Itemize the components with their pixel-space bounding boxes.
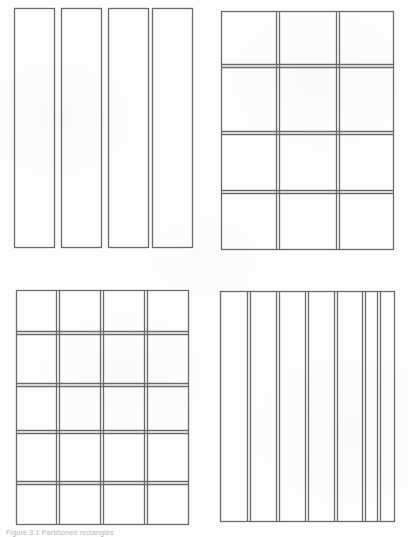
grid-3x4-drawing xyxy=(204,0,408,268)
columns-seven-drawing xyxy=(204,268,408,537)
grid-column-dividers xyxy=(57,291,148,525)
grid-4x5-drawing xyxy=(0,268,204,537)
grid-column-dividers xyxy=(277,12,340,250)
figure-grid-3x4 xyxy=(204,0,408,268)
strip-3 xyxy=(109,9,149,248)
figure-columns-seven xyxy=(204,268,408,537)
figure-four-separate-strips xyxy=(0,0,204,268)
grid-outer-border xyxy=(17,291,189,525)
strip-2 xyxy=(62,9,102,248)
strip-4 xyxy=(153,9,193,248)
grid-row-dividers xyxy=(17,332,189,485)
worksheet-page: Figure 3.1 Partitioned rectangles xyxy=(0,0,408,537)
four-strips-drawing xyxy=(0,0,204,268)
page-caption: Figure 3.1 Partitioned rectangles xyxy=(6,529,246,537)
grid-row-dividers xyxy=(222,65,394,194)
grid-outer-border xyxy=(222,12,394,250)
figure-grid-4x5 xyxy=(0,268,204,537)
column-dividers xyxy=(248,292,381,522)
columns-outer-border xyxy=(221,292,395,522)
strip-1 xyxy=(15,9,55,248)
